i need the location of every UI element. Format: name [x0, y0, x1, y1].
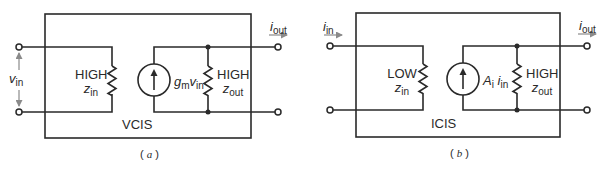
zin-label: LOW zin — [386, 67, 418, 94]
caption-a: ( a ) — [140, 148, 159, 160]
iout-label: iout — [270, 20, 287, 33]
source-wire — [154, 47, 275, 64]
junction-dot — [206, 110, 211, 115]
zout-label: HIGH zout — [526, 67, 558, 94]
junction-dot — [515, 108, 520, 113]
block-name-vcis: VCIS — [122, 118, 152, 131]
input-wire-bottom — [333, 93, 423, 110]
zin-label: HIGH zin — [75, 68, 107, 95]
source-wire-bottom — [154, 96, 275, 112]
zout-label: HIGH zout — [217, 68, 249, 95]
caption-b: ( b ) — [450, 147, 469, 159]
zout-resistor-icon — [204, 66, 212, 96]
input-terminal — [16, 109, 22, 115]
zin-resistor-icon — [108, 66, 116, 96]
output-terminal — [584, 43, 590, 49]
zout-level: HIGH — [217, 68, 249, 81]
input-terminal — [327, 43, 333, 49]
zout-level: HIGH — [526, 67, 558, 80]
output-terminal — [584, 107, 590, 113]
input-wire-bottom — [22, 94, 112, 112]
vin-label: vin — [9, 72, 23, 85]
source-gain-label: gmvin — [174, 75, 204, 88]
zin-level: HIGH — [75, 68, 107, 81]
junction-dot — [515, 44, 520, 49]
source-wire-bottom — [463, 95, 584, 110]
iout-label: iout — [579, 19, 596, 32]
input-terminal — [16, 44, 22, 50]
zout-resistor-icon — [513, 64, 521, 94]
source-wire — [463, 46, 584, 63]
output-terminal — [275, 109, 281, 115]
source-gain-label: Ai iin — [483, 74, 508, 87]
output-terminal — [275, 44, 281, 50]
input-wire-top — [333, 46, 423, 64]
iin-label: iin — [323, 20, 334, 33]
zin-level: LOW — [386, 67, 418, 80]
junction-dot — [206, 45, 211, 50]
zin-resistor-icon — [419, 64, 427, 94]
block-name-icis: ICIS — [431, 117, 456, 130]
input-terminal — [327, 107, 333, 113]
input-wire-top — [22, 47, 112, 66]
